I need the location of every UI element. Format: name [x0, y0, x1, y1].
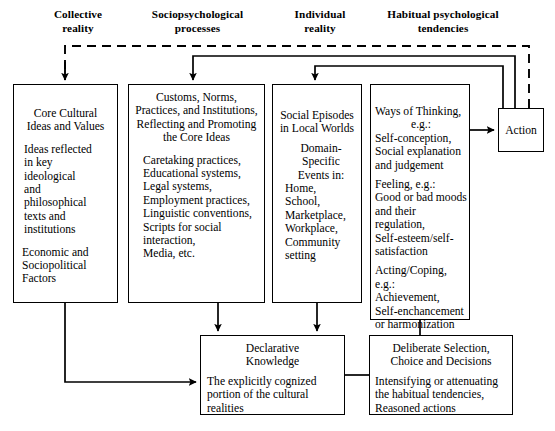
box-action-label: Action	[499, 109, 543, 153]
box-action: Action	[498, 108, 544, 152]
box-deliberate-body-intensifying: Intensifying or attenuating the habitual…	[370, 375, 512, 402]
box-declarative-knowledge: Declarative Knowledge The explicitly cog…	[200, 335, 345, 415]
box-deliberate-body-reasoned: Reasoned actions	[370, 402, 512, 415]
box-customs-title: Customs, Norms, Practices, and Instituti…	[129, 91, 264, 145]
box-ways-heading-thinking-eg: e.g.:	[371, 118, 469, 131]
box-declarative-body: The explicitly cognized portion of the c…	[201, 375, 344, 415]
box-ways-of-thinking: Ways of Thinking, e.g.: Self-conception,…	[370, 84, 470, 320]
box-social-body-list: Home, School, Marketplace, Workplace, Co…	[273, 182, 361, 262]
box-core-cultural-ideas: Core Cultural Ideas and Values Ideas ref…	[13, 84, 118, 303]
box-declarative-title: Declarative Knowledge	[201, 342, 344, 369]
box-ways-body-acting: Acting/Coping, e.g.: Achievement, Self-e…	[371, 264, 469, 331]
box-core-body-ideas: Ideas reflected in key ideological and p…	[14, 143, 117, 237]
column-header-individual-reality: Individual reality	[275, 8, 365, 35]
box-social-subtitle: Domain-Specific Events in:	[273, 142, 361, 182]
diagram-canvas: Collective reality Sociopsychological pr…	[0, 0, 555, 431]
box-deliberate-selection: Deliberate Selection, Choice and Decisio…	[369, 335, 513, 415]
box-customs-norms-practices: Customs, Norms, Practices, and Instituti…	[128, 84, 265, 303]
box-deliberate-title: Deliberate Selection, Choice and Decisio…	[370, 342, 512, 369]
box-core-body-economic: Economic and Sociopolitical Factors	[14, 246, 117, 286]
column-header-habitual-psychological-tendencies: Habitual psychological tendencies	[368, 8, 518, 35]
column-header-collective-reality: Collective reality	[28, 8, 128, 35]
box-core-title: Core Cultural Ideas and Values	[14, 107, 117, 134]
connector-core-to-declarative	[65, 303, 196, 382]
box-social-title: Social Episodes in Local Worlds	[273, 109, 361, 136]
column-header-sociopsychological-processes: Sociopsychological processes	[130, 8, 265, 35]
box-customs-body-list: Caretaking practices, Educational system…	[129, 154, 264, 261]
box-ways-body-thinking: Self-conception, Social explanation and …	[371, 132, 469, 172]
box-ways-body-feeling: Feeling, e.g.: Good or bad moods and the…	[371, 178, 469, 258]
box-social-episodes: Social Episodes in Local Worlds Domain-S…	[272, 84, 362, 303]
box-ways-heading-thinking: Ways of Thinking,	[371, 105, 469, 118]
